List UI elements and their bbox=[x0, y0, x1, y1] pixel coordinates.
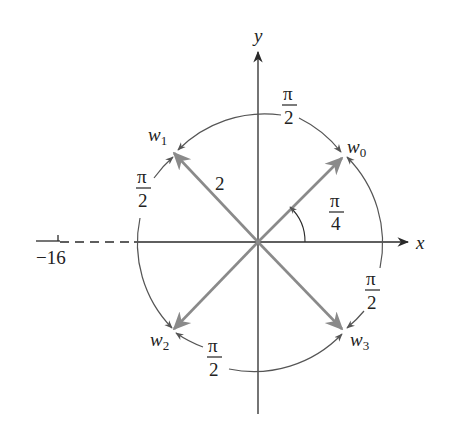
root-label-w0: w0 bbox=[347, 136, 366, 160]
arc-bottom-left bbox=[176, 333, 203, 347]
arc-top-left bbox=[178, 114, 281, 150]
root-label-w2: w2 bbox=[150, 329, 169, 353]
tick-label-minus-16: −16 bbox=[36, 247, 66, 268]
arc-left-lower bbox=[137, 218, 172, 328]
fraction-left: π 2 bbox=[136, 166, 151, 211]
vector-w3 bbox=[258, 242, 342, 329]
svg-text:2: 2 bbox=[284, 107, 294, 128]
svg-text:π: π bbox=[137, 166, 147, 187]
arc-left-upper bbox=[154, 157, 173, 178]
root-label-w3: w3 bbox=[350, 329, 369, 353]
svg-text:4: 4 bbox=[331, 213, 341, 234]
svg-text:π: π bbox=[208, 335, 218, 356]
y-axis-label: y bbox=[252, 25, 263, 46]
arc-right-upper bbox=[347, 157, 383, 268]
vector-w2 bbox=[174, 242, 258, 329]
svg-text:π: π bbox=[366, 268, 376, 289]
arc-bottom-right bbox=[229, 334, 342, 372]
svg-text:π: π bbox=[330, 190, 340, 211]
arc-top-right bbox=[299, 118, 341, 152]
svg-text:π: π bbox=[283, 83, 293, 104]
svg-text:2: 2 bbox=[138, 190, 148, 211]
arc-initial-angle bbox=[290, 207, 305, 242]
fraction-initial-angle: π 4 bbox=[329, 190, 344, 234]
svg-text:2: 2 bbox=[209, 359, 219, 380]
x-axis-label: x bbox=[415, 232, 425, 253]
arc-right-lower bbox=[347, 311, 364, 328]
root-label-w1: w1 bbox=[148, 124, 167, 148]
roots-diagram: y x −16 2 w0 w1 w2 w3 π 2 π 2 π 2 π 2 π bbox=[0, 0, 451, 429]
fraction-top: π 2 bbox=[282, 83, 297, 128]
svg-text:2: 2 bbox=[367, 292, 377, 313]
fraction-bottom: π 2 bbox=[207, 335, 222, 380]
vector-w1 bbox=[174, 153, 258, 242]
modulus-label: 2 bbox=[215, 173, 225, 194]
fraction-right: π 2 bbox=[365, 268, 380, 313]
